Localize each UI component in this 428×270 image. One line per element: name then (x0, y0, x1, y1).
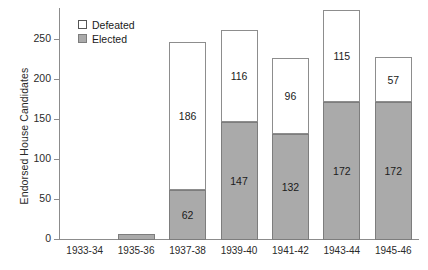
legend-label-defeated: Defeated (92, 19, 135, 31)
legend-item-defeated: Defeated (78, 18, 135, 31)
bar-group[interactable]: 172571945-46 (375, 57, 412, 240)
bar-segment-elected[interactable]: 147 (221, 122, 258, 240)
gray-square-swatch-icon (78, 34, 87, 43)
bar-value-label-defeated: 96 (273, 90, 308, 102)
y-tick-label: 200 (33, 72, 51, 84)
bar-segment-elected[interactable]: 172 (375, 102, 412, 240)
y-tick-label: 100 (33, 152, 51, 164)
legend-label-elected: Elected (92, 33, 127, 45)
bar-value-label-defeated: 57 (376, 74, 411, 86)
bar-segment-defeated[interactable]: 57 (375, 57, 412, 103)
x-tick-label: 1945-46 (363, 245, 424, 256)
bar-value-label-defeated: 186 (170, 110, 205, 122)
bar-value-label-defeated: 116 (222, 70, 257, 82)
bar-value-label-elected: 132 (273, 181, 308, 193)
bar-segment-elected[interactable]: 62 (169, 190, 206, 240)
white-square-swatch-icon (78, 20, 87, 29)
y-tick-label: 0 (45, 232, 51, 244)
bar-value-label-elected: 147 (222, 175, 257, 187)
y-tick: 0 (54, 239, 59, 240)
bar-segment-defeated[interactable]: 115 (323, 10, 360, 102)
bar-segment-elected[interactable]: 172 (323, 102, 360, 240)
bar-chart-figure: Endorsed House Candidates 05010015020025… (0, 0, 428, 270)
y-tick-label: 250 (33, 32, 51, 44)
bar-value-label-elected: 172 (376, 165, 411, 177)
y-tick: 200 (54, 79, 59, 80)
y-axis-title: Endorsed House Candidates (18, 16, 30, 256)
bar-group[interactable]: 1935-36 (118, 234, 155, 240)
y-tick: 100 (54, 159, 59, 160)
bar-segment-elected[interactable] (118, 234, 155, 240)
bar-group[interactable]: 132961941-42 (272, 58, 309, 240)
bar-group[interactable]: 1721151943-44 (323, 10, 360, 240)
y-tick: 150 (54, 119, 59, 120)
y-tick: 50 (54, 199, 59, 200)
cropped-caption-fragment (10, 261, 420, 269)
bar-segment-defeated[interactable]: 96 (272, 58, 309, 135)
y-tick: 250 (54, 39, 59, 40)
bar-group[interactable]: 621861937-38 (169, 42, 206, 240)
bar-value-label-defeated: 115 (324, 50, 359, 62)
y-axis-line (59, 8, 60, 240)
bar-segment-defeated[interactable]: 186 (169, 42, 206, 191)
legend-item-elected: Elected (78, 32, 135, 45)
y-tick-label: 150 (33, 112, 51, 124)
bar-segment-defeated[interactable]: 116 (221, 30, 258, 123)
bar-value-label-elected: 62 (170, 209, 205, 221)
chart-legend: Defeated Elected (78, 18, 135, 46)
y-tick-label: 50 (39, 192, 51, 204)
bar-segment-elected[interactable]: 132 (272, 134, 309, 240)
bar-value-label-elected: 172 (324, 165, 359, 177)
bar-group[interactable]: 1471161939-40 (221, 30, 258, 240)
